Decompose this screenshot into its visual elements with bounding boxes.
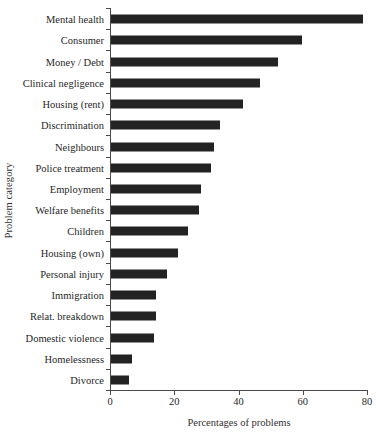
y-axis-tick <box>106 50 110 51</box>
bar-row: Employment <box>110 178 367 200</box>
y-axis-title-label: Problem category <box>4 162 15 238</box>
bar <box>111 163 211 172</box>
bar <box>111 206 199 215</box>
y-axis-tick <box>106 241 110 242</box>
x-axis-tick-label: 80 <box>362 396 373 407</box>
bar-row: Money / Debt <box>110 50 367 72</box>
category-label: Housing (own) <box>41 247 104 258</box>
bar-row: Immigration <box>110 284 367 306</box>
x-axis-tick-label: 20 <box>169 396 180 407</box>
bar-row: Welfare benefits <box>110 199 367 221</box>
bar-row: Consumer <box>110 29 367 51</box>
y-axis-tick <box>106 284 110 285</box>
bar <box>111 269 167 278</box>
bar-row: Neighbours <box>110 135 367 157</box>
category-label: Employment <box>50 184 104 195</box>
y-axis-tick <box>106 305 110 306</box>
y-axis-tick <box>106 369 110 370</box>
x-axis-tick-label: 60 <box>298 396 309 407</box>
bar-row: Personal injury <box>110 263 367 285</box>
bar <box>111 36 302 45</box>
bar <box>111 376 129 385</box>
x-axis-tick <box>110 391 111 395</box>
bar <box>111 15 363 24</box>
bar-row: Discrimination <box>110 114 367 136</box>
bar <box>111 354 132 363</box>
bar <box>111 78 260 87</box>
x-axis-tick <box>367 391 368 395</box>
bar <box>111 291 156 300</box>
bar <box>111 227 188 236</box>
x-axis-tick <box>174 391 175 395</box>
y-axis-tick <box>106 29 110 30</box>
x-axis-tick-label: 0 <box>107 396 112 407</box>
y-axis-tick <box>106 114 110 115</box>
bar-row: Relat. breakdown <box>110 305 367 327</box>
y-axis-tick <box>106 93 110 94</box>
category-label: Clinical negligence <box>23 77 104 88</box>
bar-row: Police treatment <box>110 157 367 179</box>
bar-row: Children <box>110 220 367 242</box>
bar <box>111 312 156 321</box>
category-label: Homelessness <box>45 353 105 364</box>
bar-row: Clinical negligence <box>110 72 367 94</box>
bar-row: Homelessness <box>110 348 367 370</box>
bar <box>111 100 243 109</box>
x-axis-tick-label: 40 <box>233 396 244 407</box>
y-axis-title: Problem category <box>0 0 18 400</box>
y-axis-tick <box>106 8 110 9</box>
bar-row: Domestic violence <box>110 326 367 348</box>
category-label: Relat. breakdown <box>30 311 104 322</box>
category-label: Mental health <box>46 14 104 25</box>
bar <box>111 142 214 151</box>
bar <box>111 57 278 66</box>
bar <box>111 248 178 257</box>
y-axis-tick <box>106 72 110 73</box>
bar-row: Divorce <box>110 369 367 391</box>
bar-row: Housing (own) <box>110 241 367 263</box>
category-label: Police treatment <box>35 162 104 173</box>
bar-chart: Problem category Mental healthConsumerMo… <box>0 0 385 443</box>
y-axis-tick <box>106 199 110 200</box>
category-label: Welfare benefits <box>35 205 104 216</box>
y-axis-tick <box>106 220 110 221</box>
category-label: Discrimination <box>41 120 104 131</box>
category-label: Children <box>67 226 104 237</box>
category-label: Consumer <box>61 35 104 46</box>
bar <box>111 121 220 130</box>
y-axis-tick <box>106 348 110 349</box>
x-axis-tick <box>303 391 304 395</box>
bar <box>111 333 154 342</box>
x-axis-tick <box>239 391 240 395</box>
category-label: Personal injury <box>40 268 104 279</box>
category-label: Housing (rent) <box>42 99 104 110</box>
category-label: Immigration <box>52 290 105 301</box>
bar <box>111 185 201 194</box>
y-axis-tick <box>106 135 110 136</box>
category-label: Divorce <box>70 375 104 386</box>
x-axis-title: Percentages of problems <box>110 417 368 428</box>
bar-row: Mental health <box>110 8 367 30</box>
y-axis-tick <box>106 178 110 179</box>
y-axis-tick <box>106 157 110 158</box>
plot-area: Mental healthConsumerMoney / DebtClinica… <box>110 8 367 390</box>
category-label: Money / Debt <box>46 56 104 67</box>
bar-row: Housing (rent) <box>110 93 367 115</box>
category-label: Neighbours <box>55 141 104 152</box>
y-axis-tick <box>106 263 110 264</box>
category-label: Domestic violence <box>26 332 104 343</box>
y-axis-tick <box>106 326 110 327</box>
